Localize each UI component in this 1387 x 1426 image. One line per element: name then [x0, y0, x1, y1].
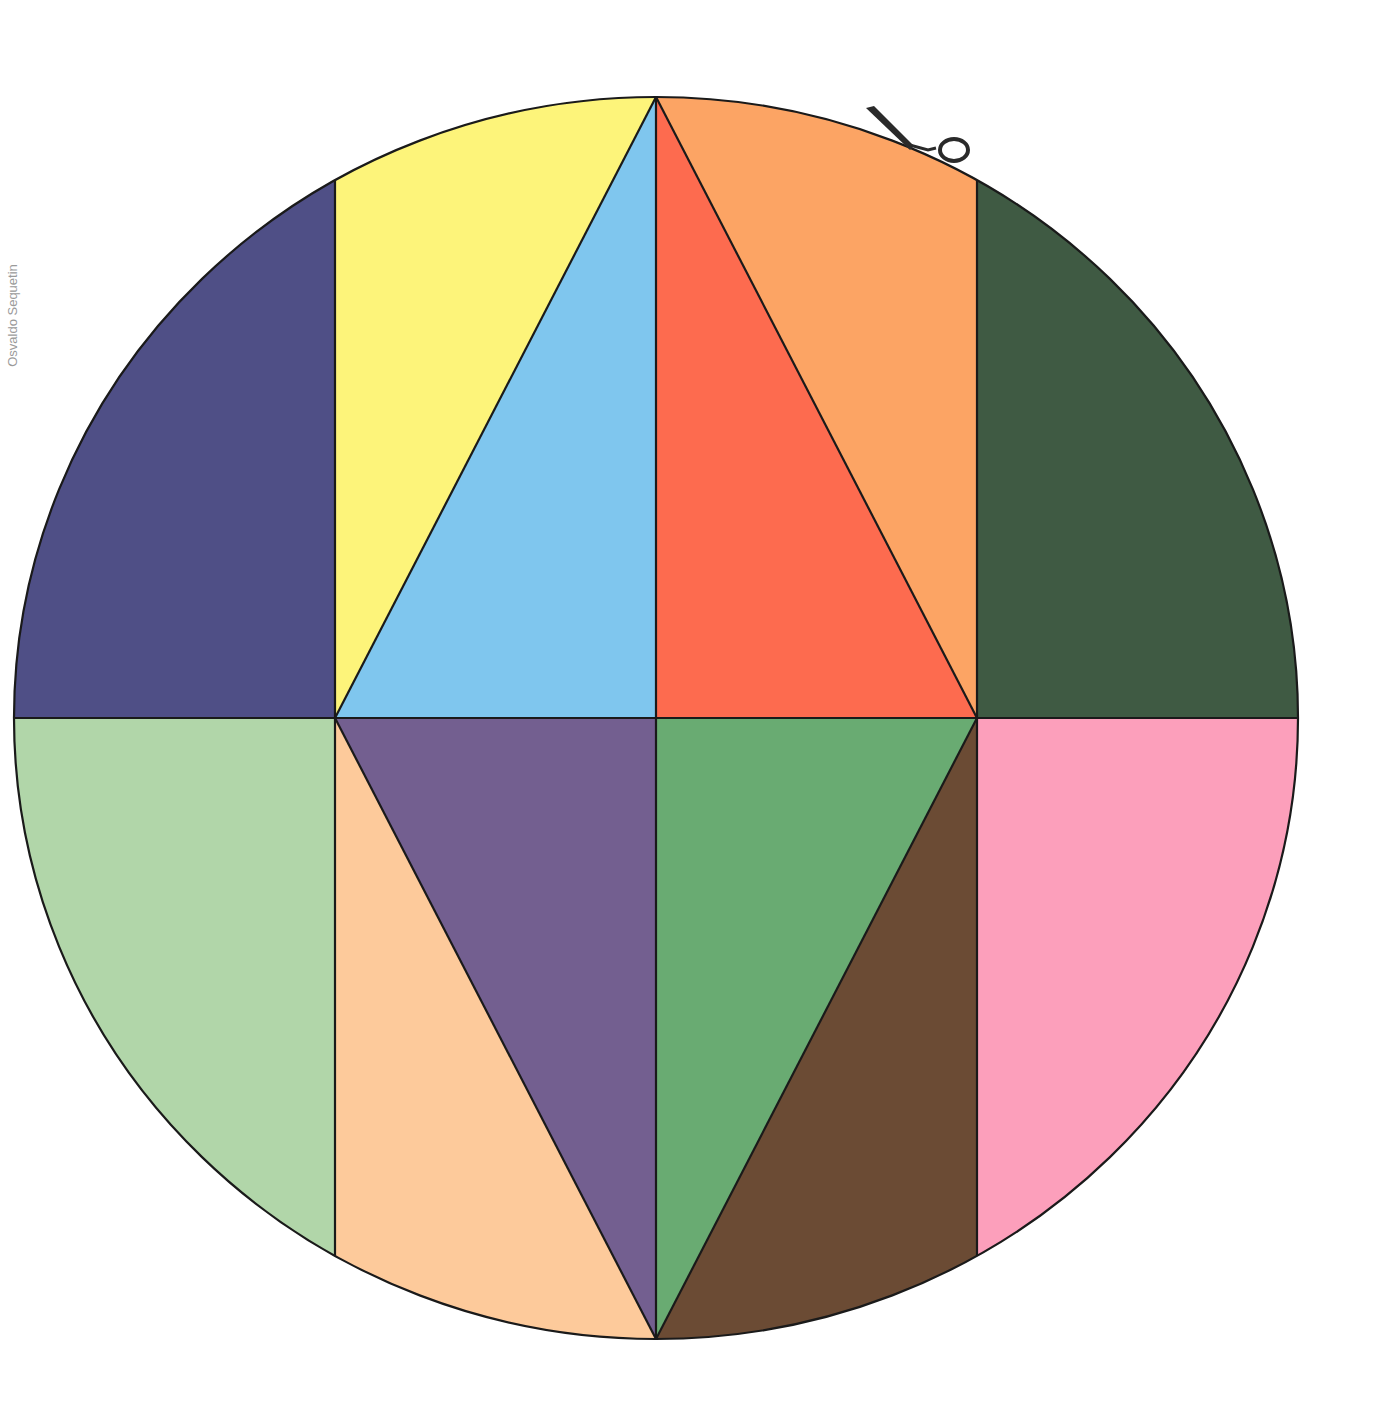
piece-top-right-segment	[977, 180, 1298, 718]
piece-bottom-right-segment	[977, 718, 1298, 1256]
cut-out-circle-diagram	[0, 0, 1387, 1426]
piece-top-left-segment	[14, 180, 335, 718]
piece-bottom-left-segment	[14, 718, 335, 1256]
